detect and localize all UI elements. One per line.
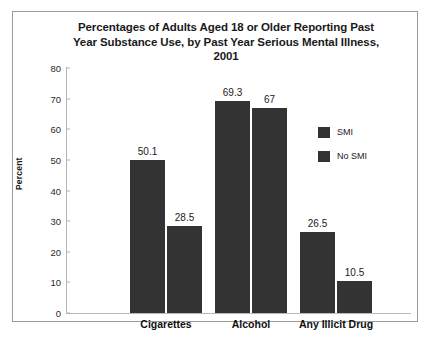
y-tick-mark <box>66 68 70 69</box>
y-tick-label: 40 <box>30 185 61 196</box>
y-tick-mark <box>66 159 70 160</box>
y-tick-mark <box>66 190 70 191</box>
category-label: Alcohol <box>232 318 271 330</box>
bar-value-label: 50.1 <box>138 146 157 157</box>
bar <box>252 108 287 313</box>
y-tick-mark <box>66 282 70 283</box>
chart-title-line-1: Percentages of Adults Aged 18 or Older R… <box>40 20 412 35</box>
y-axis-title: Percent <box>14 157 24 190</box>
y-tick-mark <box>66 129 70 130</box>
bar <box>215 101 250 313</box>
category-label: Cigarettes <box>140 318 191 330</box>
bar-value-label: 67 <box>264 94 275 105</box>
y-tick-label: 50 <box>30 154 61 165</box>
y-tick-label: 70 <box>30 93 61 104</box>
y-tick-label: 30 <box>30 216 61 227</box>
y-tick-mark <box>66 98 70 99</box>
chart-title-line-2: Year Substance Use, by Past Year Serious… <box>40 35 412 50</box>
bar <box>130 160 165 313</box>
legend-swatch <box>318 127 330 138</box>
y-tick-mark <box>66 251 70 252</box>
y-tick-label: 10 <box>30 277 61 288</box>
y-tick-label: 80 <box>30 63 61 74</box>
chart-figure: Percentages of Adults Aged 18 or Older R… <box>0 0 441 354</box>
bar <box>337 281 372 313</box>
legend-swatch <box>318 151 330 162</box>
y-tick-label: 0 <box>30 308 61 319</box>
legend-label: SMI <box>337 127 353 137</box>
y-tick-label: 20 <box>30 246 61 257</box>
category-label: Any Illicit Drug <box>299 318 373 330</box>
bar <box>167 226 202 313</box>
x-axis-line <box>66 313 411 314</box>
legend-label: No SMI <box>337 151 367 161</box>
bar <box>300 232 335 313</box>
bar-value-label: 10.5 <box>345 267 364 278</box>
bar-value-label: 26.5 <box>308 218 327 229</box>
bar-value-label: 28.5 <box>175 212 194 223</box>
bar-value-label: 69.3 <box>223 87 242 98</box>
y-tick-mark <box>66 313 70 314</box>
chart-title-line-3: 2001 <box>40 49 412 64</box>
y-tick-mark <box>66 221 70 222</box>
y-tick-label: 60 <box>30 124 61 135</box>
chart-title: Percentages of Adults Aged 18 or Older R… <box>40 20 412 64</box>
